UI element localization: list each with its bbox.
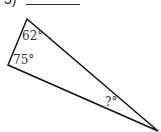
angle-right-label: ?° [105,95,117,109]
angle-left-label: 75° [13,53,34,67]
angle-top-label: 62° [22,29,43,43]
